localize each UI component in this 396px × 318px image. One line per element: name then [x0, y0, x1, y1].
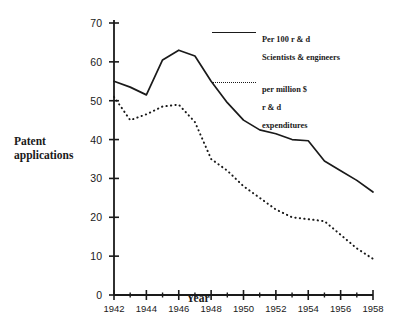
y-tick-label: 30	[76, 172, 102, 184]
y-tick-label: 50	[76, 95, 102, 107]
x-tick-label: 1958	[353, 303, 393, 314]
y-tick-label: 10	[76, 250, 102, 262]
y-tick-label: 20	[76, 211, 102, 223]
y-tick-label: 0	[76, 289, 102, 301]
legend-line-dotted-icon	[212, 82, 256, 83]
chart-figure: Patent applications Year 010203040506070…	[0, 0, 396, 318]
legend-item-solid: Per 100 r & d Scientists & engineers	[262, 28, 340, 64]
y-tick-label: 60	[76, 56, 102, 68]
legend-item-dotted: per million $ r & d expenditures	[262, 78, 307, 132]
y-tick-label: 40	[76, 134, 102, 146]
legend-label-dotted: per million $ r & d expenditures	[262, 85, 307, 130]
legend-line-solid-icon	[212, 32, 256, 33]
y-tick-label: 70	[76, 17, 102, 29]
series-line-1	[114, 50, 373, 192]
series-line-2	[114, 97, 373, 259]
legend-label-solid: Per 100 r & d Scientists & engineers	[262, 35, 340, 62]
